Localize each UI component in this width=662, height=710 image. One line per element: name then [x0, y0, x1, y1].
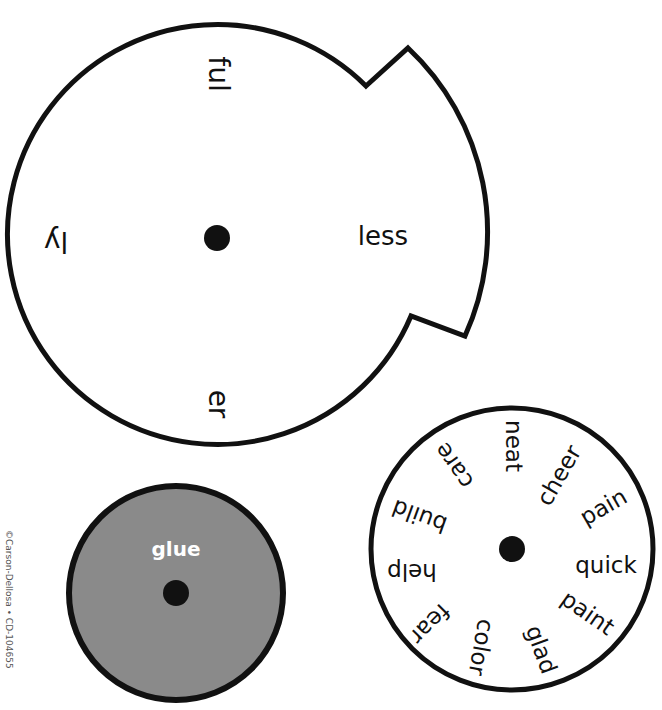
suffix-ful: ful [202, 56, 235, 91]
word-help: help [387, 559, 437, 585]
center-hole-icon [499, 536, 525, 562]
suffix-er: er [202, 390, 235, 419]
suffix-ly: ly [44, 225, 68, 258]
copyright-notice: ©Carson-Dellosa • CD-104655 [4, 530, 14, 710]
center-hole-icon [163, 580, 189, 606]
word-neat: neat [501, 420, 527, 472]
worksheet-canvas: ful less er ly neat cheer pain quick pai… [0, 0, 662, 710]
word-quick: quick [575, 552, 637, 578]
center-hole-icon [204, 225, 230, 251]
suffix-wheel: ful less er ly [7, 24, 487, 444]
glue-label: glue [152, 537, 201, 561]
glue-wheel: glue [69, 486, 283, 700]
suffix-less: less [358, 221, 408, 251]
base-word-wheel: neat cheer pain quick paint glad color f… [371, 408, 653, 690]
suffix-wheel-outline [7, 24, 487, 444]
